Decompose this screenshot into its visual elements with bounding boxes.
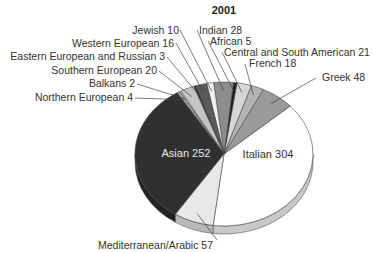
slice-label-northern-european: Northern European 4 [35,91,133,103]
slice-label-eastern-european-and-russian: Eastern European and Russian 3 [10,50,165,62]
chart-title: 2001 [212,4,236,16]
slice-label-mediterranean-arabic: Mediterranean/Arabic 57 [98,239,213,251]
slice-label-asian: Asian 252 [162,147,211,159]
slice-label-balkans: Balkans 2 [89,77,135,89]
slice-label-western-european: Western European 16 [72,37,174,49]
slice-label-central-and-south-american: Central and South American 21 [224,46,370,58]
slice-label-african: African 5 [210,35,252,47]
leader-line [271,78,316,103]
leader-line [180,30,212,91]
slice-label-french: French 18 [249,57,296,69]
pie-chart: 2001 Italian 304Greek 48French 18Central… [0,0,373,253]
slice-label-jewish: Jewish 10 [132,24,179,36]
leader-line [167,57,198,94]
slice-label-italian: Italian 304 [243,148,294,160]
slice-label-indian: Indian 28 [199,24,242,36]
slice-label-greek: Greek 48 [322,71,365,83]
slice-label-southern-european: Southern European 20 [51,64,157,76]
